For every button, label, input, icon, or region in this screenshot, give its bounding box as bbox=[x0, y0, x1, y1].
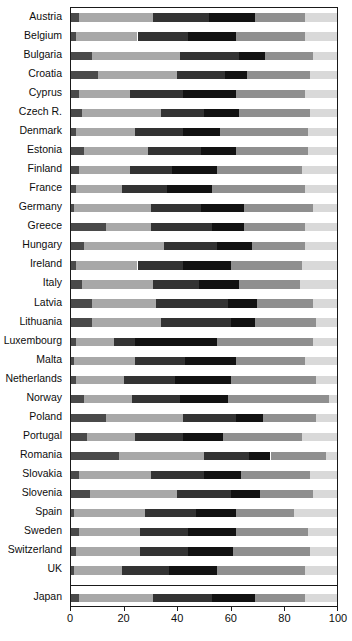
bar-segment bbox=[310, 109, 337, 117]
stacked-bar bbox=[71, 528, 337, 536]
stacked-bar bbox=[71, 338, 337, 346]
y-axis-label: Croatia bbox=[28, 68, 62, 79]
bar-row bbox=[71, 338, 337, 346]
y-axis-label: Finland bbox=[28, 163, 62, 174]
x-axis-tick-label: 80 bbox=[278, 612, 290, 624]
bar-segment bbox=[302, 166, 337, 174]
bar-segment bbox=[122, 566, 170, 574]
plot-area bbox=[70, 7, 338, 607]
y-axis-label: Greece bbox=[28, 220, 62, 231]
y-axis-label: Slovenia bbox=[22, 487, 62, 498]
bar-row bbox=[71, 223, 337, 231]
bar-segment bbox=[183, 433, 223, 441]
bar-segment bbox=[236, 90, 305, 98]
bar-segment bbox=[305, 90, 337, 98]
bar-row bbox=[71, 166, 337, 174]
bar-segment bbox=[172, 166, 217, 174]
bar-segment bbox=[239, 52, 266, 60]
bar-segment bbox=[300, 280, 337, 288]
y-axis-label: Japan bbox=[33, 591, 62, 602]
stacked-bar bbox=[71, 452, 337, 460]
bar-segment bbox=[130, 166, 173, 174]
bar-segment bbox=[244, 204, 313, 212]
bar-segment bbox=[231, 261, 303, 269]
y-axis-label: Czech R. bbox=[19, 106, 62, 117]
bar-row bbox=[71, 280, 337, 288]
bar-segment bbox=[188, 32, 236, 40]
bar-segment bbox=[239, 280, 300, 288]
bar-segment bbox=[231, 490, 260, 498]
stacked-bar bbox=[71, 90, 337, 98]
bar-segment bbox=[71, 13, 79, 21]
bar-segment bbox=[71, 395, 84, 403]
bar-row bbox=[71, 376, 337, 384]
bar-segment bbox=[106, 223, 151, 231]
bar-segment bbox=[294, 509, 337, 517]
y-axis-label: Lithuania bbox=[19, 316, 62, 327]
bar-segment bbox=[84, 147, 148, 155]
y-axis-label: Portugal bbox=[23, 430, 62, 441]
bar-segment bbox=[76, 185, 121, 193]
bar-segment bbox=[305, 357, 337, 365]
stacked-bar bbox=[71, 223, 337, 231]
bar-segment bbox=[305, 242, 337, 250]
bar-segment bbox=[316, 318, 337, 326]
bar-segment bbox=[204, 471, 241, 479]
bar-segment bbox=[204, 109, 239, 117]
bar-row bbox=[71, 433, 337, 441]
x-axis: 020406080100 bbox=[70, 607, 338, 637]
bar-segment bbox=[92, 52, 180, 60]
bar-segment bbox=[151, 204, 202, 212]
stacked-bar bbox=[71, 71, 337, 79]
stacked-bar bbox=[71, 128, 337, 136]
bar-segment bbox=[305, 13, 337, 21]
bar-segment bbox=[265, 52, 313, 60]
bar-row bbox=[71, 509, 337, 517]
bar-segment bbox=[236, 147, 308, 155]
bar-segment bbox=[212, 185, 305, 193]
bar-segment bbox=[71, 433, 87, 441]
bar-segment bbox=[71, 90, 79, 98]
bar-segment bbox=[236, 357, 305, 365]
bar-segment bbox=[305, 594, 337, 602]
bar-segment bbox=[199, 280, 239, 288]
bar-segment bbox=[313, 299, 337, 307]
bar-segment bbox=[145, 509, 196, 517]
bar-segment bbox=[212, 594, 255, 602]
bar-segment bbox=[87, 433, 135, 441]
stacked-bar bbox=[71, 166, 337, 174]
x-axis-tick bbox=[177, 607, 178, 611]
bar-row bbox=[71, 147, 337, 155]
bar-segment bbox=[74, 357, 135, 365]
bar-segment bbox=[316, 414, 337, 422]
x-axis-tick-label: 40 bbox=[171, 612, 183, 624]
stacked-bar bbox=[71, 280, 337, 288]
bar-segment bbox=[302, 261, 337, 269]
bar-segment bbox=[71, 280, 82, 288]
y-axis-label: Luxembourg bbox=[4, 335, 62, 346]
bar-segment bbox=[260, 490, 313, 498]
bar-segment bbox=[188, 547, 233, 555]
x-axis-tick bbox=[231, 607, 232, 611]
bar-segment bbox=[183, 128, 220, 136]
bar-segment bbox=[71, 147, 84, 155]
y-axis-category-labels: AustriaBelgiumBulgariaCroatiaCyprusCzech… bbox=[0, 7, 66, 607]
bar-segment bbox=[140, 547, 188, 555]
bar-segment bbox=[132, 395, 180, 403]
bar-segment bbox=[252, 242, 305, 250]
bar-row bbox=[71, 204, 337, 212]
bar-segment bbox=[79, 528, 140, 536]
bar-segment bbox=[305, 185, 337, 193]
bar-segment bbox=[119, 452, 204, 460]
bar-segment bbox=[79, 90, 130, 98]
stacked-bar bbox=[71, 318, 337, 326]
y-axis-label: Bulgaria bbox=[23, 49, 62, 60]
y-axis-label: Belgium bbox=[24, 30, 62, 41]
bar-segment bbox=[231, 376, 316, 384]
bar-segment bbox=[124, 376, 175, 384]
bar-segment bbox=[84, 395, 132, 403]
bar-segment bbox=[76, 338, 113, 346]
bar-segment bbox=[255, 318, 316, 326]
y-axis-label: Spain bbox=[35, 506, 62, 517]
bar-row bbox=[71, 109, 337, 117]
